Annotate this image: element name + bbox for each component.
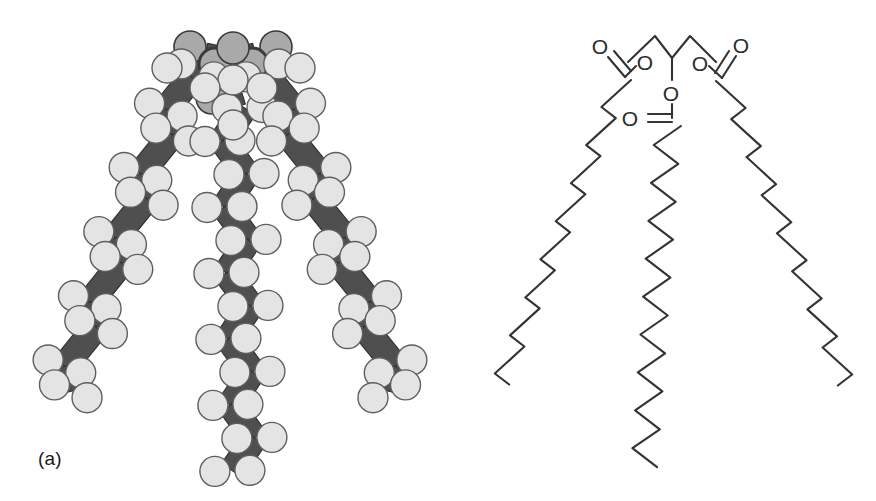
carbon-sphere bbox=[200, 456, 230, 486]
carbonyl-oxygen-right: O bbox=[733, 34, 749, 57]
oxygen-sphere bbox=[217, 32, 249, 64]
carbon-sphere bbox=[90, 242, 120, 272]
carbon-sphere bbox=[365, 306, 395, 336]
carbon-sphere bbox=[218, 65, 248, 95]
ester-oxygen-right: O bbox=[692, 52, 708, 75]
carbon-sphere bbox=[257, 422, 287, 452]
carbon-sphere bbox=[198, 390, 228, 420]
carbon-sphere bbox=[190, 127, 220, 157]
carbon-sphere bbox=[194, 258, 224, 288]
carbon-sphere bbox=[253, 290, 283, 320]
carbon-sphere bbox=[72, 383, 102, 413]
left-acyl-chain bbox=[495, 80, 631, 385]
carbon-sphere bbox=[391, 370, 421, 400]
space-filling-model-drawing bbox=[0, 0, 438, 501]
carbon-sphere bbox=[314, 177, 344, 207]
carbon-sphere bbox=[235, 455, 265, 485]
atom-label-group: OOOOOO bbox=[592, 34, 749, 130]
carbon-sphere bbox=[251, 224, 281, 254]
figure-root: (a) OOOOOO (b) bbox=[0, 0, 876, 501]
carbon-sphere bbox=[289, 113, 319, 143]
carbon-sphere bbox=[192, 192, 222, 222]
carbon-sphere bbox=[285, 53, 315, 83]
carbon-sphere bbox=[257, 126, 287, 156]
carbon-sphere bbox=[116, 177, 146, 207]
carbon-sphere bbox=[65, 306, 95, 336]
structural-formula-drawing: OOOOOO bbox=[438, 0, 876, 501]
carbon-sphere bbox=[233, 389, 263, 419]
carbon-sphere bbox=[148, 190, 178, 220]
carbon-sphere bbox=[218, 110, 248, 140]
carbon-sphere bbox=[229, 257, 259, 287]
panel-a-space-filling-model: (a) bbox=[0, 0, 438, 501]
carbon-sphere bbox=[220, 357, 250, 387]
ester-oxygen-middle: O bbox=[663, 82, 679, 105]
carbon-sphere bbox=[218, 291, 248, 321]
middle-acyl-chain bbox=[632, 126, 681, 467]
carbon-sphere bbox=[141, 113, 171, 143]
panel-a-label: (a) bbox=[38, 448, 62, 470]
ester-oxygen-left: O bbox=[637, 51, 653, 74]
carbon-sphere bbox=[97, 319, 127, 349]
carbon-sphere bbox=[282, 190, 312, 220]
carbon-sphere bbox=[333, 319, 363, 349]
carbon-sphere bbox=[222, 423, 252, 453]
carbon-sphere bbox=[196, 324, 226, 354]
carbon-sphere bbox=[231, 323, 261, 353]
carbon-sphere bbox=[340, 242, 370, 272]
panel-b-structural-formula: OOOOOO (b) bbox=[438, 0, 876, 501]
carbon-sphere bbox=[190, 73, 220, 103]
right-acyl-chain bbox=[716, 81, 852, 386]
carbon-sphere bbox=[216, 225, 246, 255]
carbon-sphere bbox=[39, 370, 69, 400]
carbon-sphere bbox=[247, 73, 277, 103]
carbon-sphere bbox=[123, 254, 153, 284]
carbon-sphere bbox=[214, 160, 244, 190]
carbon-sphere bbox=[358, 383, 388, 413]
carbon-sphere bbox=[227, 191, 257, 221]
carbon-sphere bbox=[307, 254, 337, 284]
carbonyl-oxygen-middle: O bbox=[622, 107, 638, 130]
carbonyl-oxygen-left: O bbox=[592, 35, 608, 58]
carbon-sphere bbox=[249, 158, 279, 188]
carbon-sphere bbox=[152, 53, 182, 83]
carbon-sphere bbox=[255, 356, 285, 386]
